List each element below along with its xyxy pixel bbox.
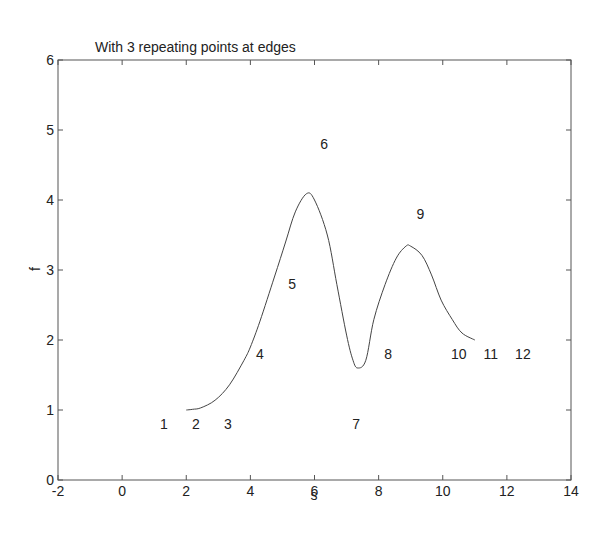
y-tick-label: 1 <box>46 402 54 418</box>
point-label: 6 <box>320 136 328 152</box>
chart-title: With 3 repeating points at edges <box>95 39 296 55</box>
x-tick-label: 2 <box>182 483 190 499</box>
x-tick-label: 8 <box>375 483 383 499</box>
point-label: 3 <box>224 416 232 432</box>
x-tick-label: 4 <box>246 483 254 499</box>
x-tick-label: 10 <box>435 483 451 499</box>
x-tick-label: 0 <box>118 483 126 499</box>
point-label: 7 <box>352 416 360 432</box>
point-label: 5 <box>288 276 296 292</box>
y-tick-label: 2 <box>46 332 54 348</box>
spline-curve <box>186 193 475 410</box>
point-label: 2 <box>192 416 200 432</box>
y-axis-ticks: 0123456 <box>46 52 571 488</box>
point-label: 4 <box>256 346 264 362</box>
point-label: 12 <box>515 346 531 362</box>
point-label: 10 <box>451 346 467 362</box>
x-tick-label: 14 <box>563 483 579 499</box>
point-labels: 123456789101112 <box>160 136 531 432</box>
axes <box>58 60 571 480</box>
point-label: 8 <box>384 346 392 362</box>
point-label: 1 <box>160 416 168 432</box>
y-tick-label: 0 <box>46 472 54 488</box>
y-tick-label: 4 <box>46 192 54 208</box>
y-tick-label: 3 <box>46 262 54 278</box>
x-axis-label: s <box>311 487 318 503</box>
x-axis-ticks: -202468101214 <box>52 60 579 499</box>
point-label: 9 <box>416 206 424 222</box>
y-tick-label: 5 <box>46 122 54 138</box>
x-tick-label: 12 <box>499 483 515 499</box>
point-label: 11 <box>484 346 499 362</box>
y-axis-label: f <box>27 267 43 271</box>
chart-canvas: With 3 repeating points at edges -202468… <box>0 0 615 540</box>
plot-frame <box>58 60 571 480</box>
y-tick-label: 6 <box>46 52 54 68</box>
